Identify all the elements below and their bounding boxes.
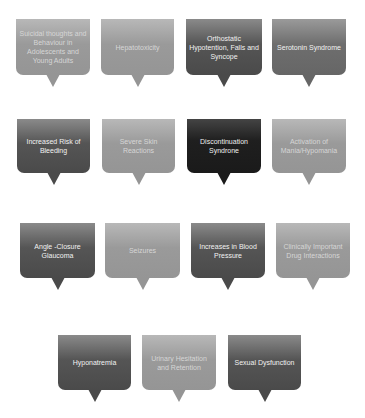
pointer-tail: [136, 277, 150, 290]
pointer-tail: [46, 74, 60, 87]
bubble-label: Discontinuation Syndrone: [187, 119, 261, 173]
bubble-label: Suicidal thoughts and Behaviour in Adole…: [16, 19, 90, 75]
pointer-tail: [217, 172, 231, 185]
bubble-label: Hyponatremia: [58, 335, 131, 390]
bubble-hyponatremia: Hyponatremia: [58, 335, 131, 402]
pointer-tail: [306, 277, 320, 290]
pointer-tail: [172, 389, 186, 402]
bubble-glaucoma: Angle -Closure Glaucoma: [20, 223, 95, 290]
bubble-label: Angle -Closure Glaucoma: [20, 223, 95, 278]
pointer-tail: [302, 172, 316, 185]
pointer-tail: [88, 389, 102, 402]
bubble-label: Hepatotoxicity: [101, 19, 174, 75]
bubble-drug-interactions: Clinically Important Drug Interactions: [276, 223, 350, 290]
bubble-label: Clinically Important Drug Interactions: [276, 223, 350, 278]
bubble-urinary-retention: Urinary Hesitation and Retention: [142, 335, 216, 402]
bubble-serotonin-syndrome: Serotonin Syndrome: [272, 19, 346, 87]
pointer-tail: [51, 277, 65, 290]
bubble-label: Sexual Dysfunction: [228, 335, 301, 390]
bubble-label: Urinary Hesitation and Retention: [142, 335, 216, 390]
pointer-tail: [302, 74, 316, 87]
bubble-mania-activation: Activation of Mania/Hypomania: [272, 119, 346, 185]
bubble-label: Increases in Blood Pressure: [191, 223, 265, 278]
pointer-tail: [258, 389, 272, 402]
pointer-tail: [132, 172, 146, 185]
bubble-suicidal-thoughts: Suicidal thoughts and Behaviour in Adole…: [16, 19, 90, 87]
pointer-tail: [221, 277, 235, 290]
bubble-seizures: Seizures: [105, 223, 180, 290]
bubble-discontinuation-syndrome: Discontinuation Syndrone: [187, 119, 261, 185]
bubble-label: Activation of Mania/Hypomania: [272, 119, 346, 173]
bubble-label: Severe Skin Reactions: [102, 119, 175, 173]
bubble-label: Orthostatic Hypotention, Falls and Synco…: [186, 19, 262, 75]
bubble-label: Serotonin Syndrome: [272, 19, 346, 75]
bubble-orthostatic-hypotension: Orthostatic Hypotention, Falls and Synco…: [186, 19, 262, 87]
bubble-sexual-dysfunction: Sexual Dysfunction: [228, 335, 301, 402]
bubble-label: Seizures: [105, 223, 180, 278]
bubble-label: Increased Risk of Bleeding: [17, 119, 90, 173]
pointer-tail: [131, 74, 145, 87]
bubble-hepatotoxicity: Hepatotoxicity: [101, 19, 174, 87]
pointer-tail: [47, 172, 61, 185]
bubble-blood-pressure: Increases in Blood Pressure: [191, 223, 265, 290]
bubble-bleeding-risk: Increased Risk of Bleeding: [17, 119, 90, 185]
pointer-tail: [217, 74, 231, 87]
bubble-skin-reactions: Severe Skin Reactions: [102, 119, 175, 185]
